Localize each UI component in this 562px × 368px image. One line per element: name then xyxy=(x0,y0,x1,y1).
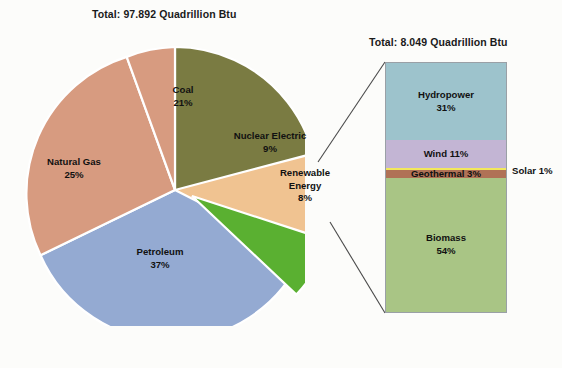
bar-segment-biomass[interactable]: Biomass 54% xyxy=(386,178,506,312)
bar-label-hydropower-pct: 31% xyxy=(418,102,474,115)
connector-line-bottom xyxy=(330,222,385,313)
connector-line-top xyxy=(318,62,385,162)
bar-segment-wind[interactable]: Wind 11% xyxy=(386,140,506,167)
bar-label-biomass-name: Biomass xyxy=(426,232,466,245)
bar-label-hydropower: Hydropower 31% xyxy=(418,89,474,114)
bar-label-hydropower-name: Hydropower xyxy=(418,89,474,102)
bar-segment-geothermal[interactable]: Geothermal 3% xyxy=(386,170,506,177)
energy-consumption-figure: Total: 97.892 Quadrillion Btu Total: 8.0… xyxy=(0,0,562,368)
energy-sources-pie-chart: Coal 21% Nuclear Electric 9% Renewable E… xyxy=(10,34,305,326)
bar-label-biomass-pct: 54% xyxy=(426,245,466,258)
bar-label-wind: Wind 11% xyxy=(424,148,469,161)
bar-segment-hydropower[interactable]: Hydropower 31% xyxy=(386,63,506,140)
bar-chart-title: Total: 8.049 Quadrillion Btu xyxy=(369,36,508,48)
renewable-energy-stacked-bar: Hydropower 31% Wind 11% Geothermal 3% Bi… xyxy=(385,62,507,313)
bar-label-biomass: Biomass 54% xyxy=(426,232,466,257)
bar-label-solar: Solar 1% xyxy=(512,165,553,176)
pie-svg xyxy=(10,34,305,326)
pie-chart-title: Total: 97.892 Quadrillion Btu xyxy=(92,8,236,20)
